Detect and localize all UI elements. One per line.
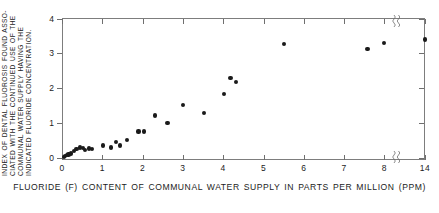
data-point bbox=[136, 129, 140, 133]
x-axis-tick-label: 4 bbox=[213, 163, 233, 173]
y-axis-tick-label: 0 bbox=[40, 153, 54, 163]
y-axis-tick-label: 2 bbox=[40, 83, 54, 93]
y-axis-title-line-2: CIATED WITH THE CONTINUED USE OF THE bbox=[9, 15, 16, 176]
data-point bbox=[181, 103, 185, 107]
data-point bbox=[125, 138, 129, 142]
x-axis-tick-label: 14 bbox=[415, 163, 435, 173]
y-axis-title-line-3: COMMUNAL WATER SUPPLY HAVING THE bbox=[17, 27, 24, 176]
data-point bbox=[153, 113, 157, 117]
data-point bbox=[101, 143, 105, 147]
x-axis-tick-label: 6 bbox=[294, 163, 314, 173]
x-axis-tick-label: 0 bbox=[52, 163, 72, 173]
x-axis-tick-top bbox=[425, 19, 426, 24]
y-axis-tick-label: 3 bbox=[40, 48, 54, 58]
data-point bbox=[109, 145, 113, 149]
data-point bbox=[90, 147, 94, 151]
x-axis-tick-label: 2 bbox=[133, 163, 153, 173]
data-point bbox=[142, 129, 146, 133]
x-axis-tick-label: 7 bbox=[334, 163, 354, 173]
data-point bbox=[282, 42, 286, 46]
axis-break-top-icon bbox=[390, 12, 406, 28]
fluorosis-scatter-figure: INDEX OF DENTAL FLUOROSIS FOUND ASSO- CI… bbox=[0, 0, 439, 213]
y-axis-tick-label: 1 bbox=[40, 118, 54, 128]
y-axis-title-line-1: INDEX OF DENTAL FLUOROSIS FOUND ASSO- bbox=[1, 10, 8, 176]
data-point bbox=[202, 111, 206, 115]
data-point bbox=[165, 121, 169, 125]
data-point bbox=[234, 80, 238, 84]
plot-data-area bbox=[62, 18, 425, 160]
x-axis-tick-label: 5 bbox=[254, 163, 274, 173]
y-axis-tick-label: 4 bbox=[40, 14, 54, 24]
x-axis-tick-label: 3 bbox=[173, 163, 193, 173]
data-point bbox=[365, 47, 369, 51]
axis-break-bottom-icon bbox=[390, 150, 406, 166]
y-axis-title: INDEX OF DENTAL FLUOROSIS FOUND ASSO- CI… bbox=[0, 0, 40, 178]
data-point bbox=[423, 37, 427, 41]
data-point bbox=[222, 92, 226, 96]
y-axis-title-line-4: INDICATED FLUORIDE CONCENTRATION. bbox=[25, 29, 32, 176]
x-axis-title: FLUORIDE (F) CONTENT OF COMMUNAL WATER S… bbox=[0, 182, 439, 192]
x-axis-tick-label: 1 bbox=[92, 163, 112, 173]
data-point bbox=[228, 76, 232, 80]
x-axis-tick bbox=[425, 155, 426, 160]
data-point bbox=[382, 41, 386, 45]
data-point bbox=[118, 143, 122, 147]
